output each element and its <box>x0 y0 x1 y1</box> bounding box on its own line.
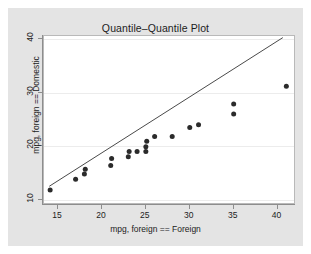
data-layer <box>44 36 295 204</box>
data-point <box>144 139 149 144</box>
x-tick-label: 35 <box>222 210 244 220</box>
chart-title: Quantile–Quantile Plot <box>8 22 303 34</box>
data-point <box>143 149 148 154</box>
plot-wrapper <box>43 35 295 204</box>
chart-figure: Quantile–Quantile Plot 10203040 15202530… <box>8 8 303 246</box>
data-point <box>152 134 157 139</box>
data-point <box>83 167 88 172</box>
data-point <box>143 144 148 149</box>
reference-line <box>49 38 283 187</box>
x-tick-mark <box>101 205 102 209</box>
y-axis-line <box>42 35 43 205</box>
data-point <box>48 188 53 193</box>
y-axis-label: mpg, foreign == Domestic <box>31 30 41 180</box>
x-tick-label: 20 <box>90 210 112 220</box>
x-axis-label: mpg, foreign == Foreign <box>8 224 303 234</box>
data-point <box>135 149 140 154</box>
data-point <box>196 122 201 127</box>
x-tick-label: 25 <box>134 210 156 220</box>
data-point <box>73 177 78 182</box>
x-axis-line <box>42 204 295 205</box>
data-point <box>231 101 236 106</box>
x-tick-mark <box>57 205 58 209</box>
data-point <box>126 154 131 159</box>
x-tick-label: 40 <box>266 210 288 220</box>
data-point <box>284 84 289 89</box>
x-tick-mark <box>277 205 278 209</box>
y-tick-label: 10 <box>25 190 35 206</box>
data-point <box>231 112 236 117</box>
data-point <box>109 156 114 161</box>
data-point <box>170 134 175 139</box>
x-tick-mark <box>233 205 234 209</box>
data-point <box>127 149 132 154</box>
plot-area <box>43 35 295 204</box>
data-point <box>82 171 87 176</box>
scatter-markers <box>48 84 289 193</box>
x-tick-mark <box>189 205 190 209</box>
y-tick-mark <box>38 199 42 200</box>
data-point <box>187 125 192 130</box>
x-tick-label: 15 <box>46 210 68 220</box>
x-tick-mark <box>145 205 146 209</box>
x-tick-label: 30 <box>178 210 200 220</box>
data-point <box>108 163 113 168</box>
